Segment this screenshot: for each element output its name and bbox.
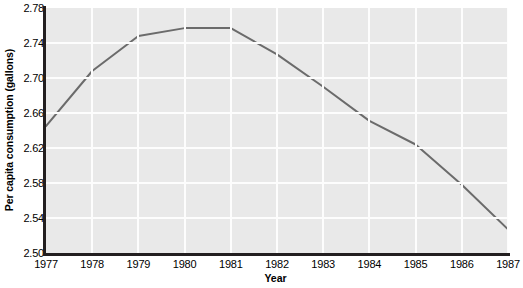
y-axis-tick-label: 2.66 — [2, 107, 44, 119]
gridline-vertical — [276, 8, 278, 253]
y-axis-tick-label: 2.54 — [2, 212, 44, 224]
x-axis-line — [43, 253, 510, 256]
x-axis-tick-label: 1987 — [496, 258, 520, 270]
gridline-vertical — [137, 8, 139, 253]
x-axis-label-text: Year — [264, 272, 286, 284]
y-axis-tick-label: 2.74 — [2, 37, 44, 49]
y-axis-tick-label: 2.78 — [2, 2, 44, 14]
gridline-vertical — [461, 8, 463, 253]
gridline-vertical — [415, 8, 417, 253]
y-axis-tick-label: 2.70 — [2, 72, 44, 84]
gridline-vertical — [507, 8, 508, 253]
x-axis-tick-label: 1979 — [127, 258, 151, 270]
y-axis-tick-label: 2.58 — [2, 177, 44, 189]
x-axis-tick-label: 1978 — [80, 258, 104, 270]
x-axis-tick-label: 1981 — [219, 258, 243, 270]
gridline-vertical — [368, 8, 370, 253]
x-axis-label: Year — [0, 272, 523, 284]
x-axis-tick-label: 1982 — [265, 258, 289, 270]
x-axis-tick-label: 1986 — [450, 258, 474, 270]
gridline-vertical — [322, 8, 324, 253]
x-axis-tick-label: 1977 — [34, 258, 58, 270]
x-axis-tick-label: 1983 — [311, 258, 335, 270]
y-axis-tick-label: 2.62 — [2, 142, 44, 154]
gridline-vertical — [184, 8, 186, 253]
chart-figure: Per capita consumption (gallons) 2.782.7… — [0, 0, 523, 288]
x-axis-tick-label: 1985 — [404, 258, 428, 270]
x-axis-tick-label: 1980 — [173, 258, 197, 270]
y-axis-ticks: 2.782.742.702.662.622.582.542.50 — [0, 0, 44, 288]
x-axis-tick-label: 1984 — [358, 258, 382, 270]
gridline-vertical — [230, 8, 232, 253]
plot-area — [46, 8, 508, 253]
gridline-vertical — [91, 8, 93, 253]
